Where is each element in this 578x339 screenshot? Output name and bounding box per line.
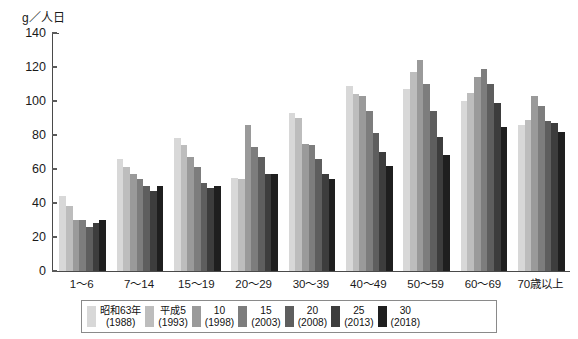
- bar-group: [231, 33, 278, 271]
- bar: [461, 101, 468, 271]
- legend-swatch: [87, 306, 96, 327]
- bar: [86, 227, 93, 271]
- bar: [251, 147, 258, 271]
- bar: [353, 94, 360, 271]
- bar: [423, 84, 430, 271]
- bar: [93, 223, 100, 271]
- bar: [258, 157, 265, 271]
- bar: [295, 118, 302, 271]
- bar-group: [346, 33, 393, 271]
- legend-label: 25(2013): [344, 305, 373, 328]
- bar: [150, 191, 157, 271]
- x-axis-tick-label: 15〜19: [168, 275, 225, 291]
- bar: [487, 84, 494, 271]
- bar: [359, 96, 366, 271]
- bar-group: [59, 33, 106, 271]
- x-axis-tick-label: 50〜59: [397, 275, 454, 291]
- bar: [373, 133, 380, 271]
- bar: [181, 145, 188, 271]
- legend-swatch: [145, 306, 154, 327]
- legend-label: 昭和63年(1988): [100, 305, 141, 328]
- bar: [117, 159, 124, 271]
- y-axis-tick-label: 120: [0, 61, 46, 74]
- bar: [443, 155, 450, 271]
- legend-item[interactable]: 20(2008): [285, 305, 327, 328]
- legend-item[interactable]: 平成5(1993): [145, 305, 187, 328]
- bar-group: [403, 33, 450, 271]
- y-axis-tick-label: 100: [0, 95, 46, 108]
- bar: [558, 132, 565, 271]
- bar: [271, 174, 278, 271]
- y-axis-unit-label: g／人日: [22, 8, 65, 25]
- bar: [289, 113, 296, 271]
- bar: [329, 179, 336, 271]
- bar: [518, 125, 525, 271]
- x-axis-tick-label: 40〜49: [340, 275, 397, 291]
- bar: [207, 188, 214, 271]
- bar: [245, 125, 252, 271]
- bar-group: [117, 33, 164, 271]
- bar: [474, 77, 481, 271]
- bar: [315, 159, 322, 271]
- legend-swatch: [378, 306, 387, 327]
- bar: [379, 152, 386, 271]
- bar: [123, 167, 130, 271]
- y-axis-tick-label: 0: [0, 265, 46, 278]
- bar: [265, 174, 272, 271]
- y-axis-tick-label: 20: [0, 231, 46, 244]
- bar-chart: g／人日 020406080100120140 1〜67〜1415〜1920〜2…: [0, 0, 578, 339]
- bar: [525, 120, 532, 271]
- legend-item[interactable]: 25(2013): [331, 305, 373, 328]
- x-axis-tick-label: 1〜6: [53, 275, 110, 291]
- legend-item[interactable]: 昭和63年(1988): [87, 305, 141, 328]
- legend-item[interactable]: 15(2003): [238, 305, 280, 328]
- bar: [174, 138, 181, 271]
- legend-swatch: [285, 306, 294, 327]
- bar-group: [461, 33, 508, 271]
- bars-area: [53, 33, 569, 271]
- bar: [366, 111, 373, 271]
- bar: [417, 60, 424, 271]
- bar: [201, 183, 208, 271]
- bar: [214, 186, 221, 271]
- y-axis-tick-label: 140: [0, 27, 46, 40]
- bar: [194, 167, 201, 271]
- legend-swatch: [192, 306, 201, 327]
- legend-label: 20(2008): [298, 305, 327, 328]
- bar: [73, 220, 80, 271]
- bar: [302, 144, 309, 272]
- bar: [137, 179, 144, 271]
- x-axis-tick-label: 20〜29: [225, 275, 282, 291]
- legend-label: 10(1998): [205, 305, 234, 328]
- bar: [187, 157, 194, 271]
- bar: [157, 186, 164, 271]
- y-axis-tick-label: 60: [0, 163, 46, 176]
- x-axis-tick-label: 70歳以上: [512, 275, 569, 291]
- bar: [437, 137, 444, 271]
- legend-label: 15(2003): [251, 305, 280, 328]
- bar-group: [174, 33, 221, 271]
- legend-item[interactable]: 10(1998): [192, 305, 234, 328]
- x-axis-tick-label: 30〜39: [282, 275, 339, 291]
- bar: [231, 178, 238, 272]
- y-axis-tick-label: 40: [0, 197, 46, 210]
- bar: [99, 220, 106, 271]
- legend-label: 平成5(1993): [158, 305, 187, 328]
- bar: [79, 220, 86, 271]
- bar: [430, 111, 437, 271]
- legend-item[interactable]: 30(2018): [378, 305, 420, 328]
- y-axis-tick-label: 80: [0, 129, 46, 142]
- legend-swatch: [238, 306, 247, 327]
- bar: [59, 196, 66, 271]
- bar: [545, 121, 552, 271]
- bar: [130, 174, 137, 271]
- bar: [346, 86, 353, 271]
- bar-group: [518, 33, 565, 271]
- x-axis-tick-label: 60〜69: [454, 275, 511, 291]
- bar: [501, 127, 508, 272]
- legend-swatch: [331, 306, 340, 327]
- bar: [481, 69, 488, 271]
- bar: [538, 106, 545, 271]
- bar: [238, 179, 245, 271]
- bar: [143, 186, 150, 271]
